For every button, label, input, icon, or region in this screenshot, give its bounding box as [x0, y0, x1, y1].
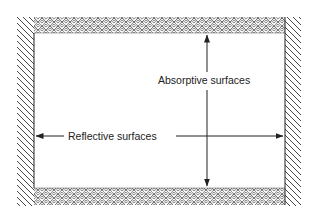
right-reflective-wall — [285, 17, 301, 206]
bottom-absorptive-surface — [34, 188, 285, 205]
left-reflective-wall — [17, 17, 34, 206]
top-absorptive-surface — [34, 17, 285, 33]
reflective-surfaces-label: Reflective surfaces — [65, 130, 160, 142]
room-diagram — [0, 0, 320, 218]
absorptive-surfaces-label: Absorptive surfaces — [155, 74, 253, 86]
